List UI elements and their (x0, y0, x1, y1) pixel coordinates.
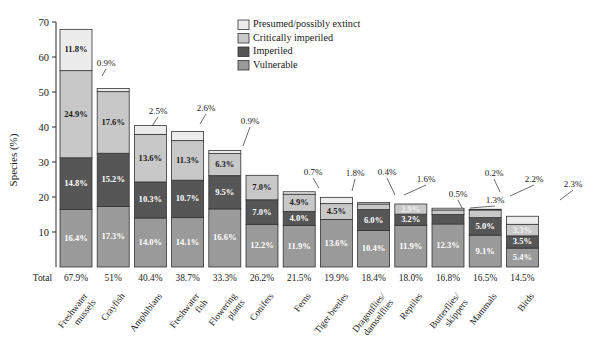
y-axis-title: Species (%) (7, 133, 20, 186)
category-label: Conifers (248, 291, 276, 323)
bar-1: 16.4%14.8%24.9%11.8% (60, 29, 92, 267)
category-label: Mammals (468, 291, 499, 327)
bar-8: 13.6%4.5% (320, 197, 352, 267)
category-label-line: Mammals (468, 291, 499, 327)
bar-segment-label: 14.0% (139, 237, 163, 247)
legend: Presumed/possibly extinctCritically impe… (238, 18, 360, 70)
callout-label: 0.2% (485, 168, 504, 178)
category-label: Freshwaterfish (168, 290, 210, 336)
callout-label: 2.3% (564, 179, 583, 189)
y-axis-tick-label: 10 (39, 227, 50, 238)
bar-segment (432, 208, 464, 210)
bar-total-value: 16.5% (473, 273, 497, 283)
bar-total-value: 18.0% (399, 273, 423, 283)
category-label: Dragonflies/damselflies (350, 291, 395, 341)
bar-segment (506, 216, 538, 224)
legend-label: Vulnerable (253, 59, 298, 70)
bar-segment (358, 203, 390, 204)
category-label: Ferns (292, 291, 313, 314)
callout-label: 0.7% (304, 167, 323, 177)
bar-total-value: 18.4% (361, 273, 385, 283)
bar-segment-label: 5.4% (513, 252, 532, 262)
callout-label: 1.6% (417, 174, 436, 184)
bar-segment-label: 14.1% (176, 237, 200, 247)
category-label-line: Amphibians (128, 291, 164, 334)
bar-10: 11.9%3.2%2.9% (395, 204, 427, 267)
bar-segment-label: 11.8% (64, 44, 87, 54)
bar-segment-label: 14.8% (64, 178, 88, 188)
callout-label: 0.9% (97, 58, 116, 68)
chart-canvas: 10203040506070Species (%)16.4%14.8%24.9%… (0, 0, 600, 358)
bar-5: 16.6%9.5%6.3% (209, 150, 241, 267)
category-label-line: Birds (516, 291, 537, 313)
callout-label: 0.5% (449, 189, 468, 199)
bar-segment-label: 16.4% (64, 233, 88, 243)
bar-segment-label: 10.7% (176, 193, 200, 203)
bar-total-value: 14.5% (510, 273, 534, 283)
category-label-line: Reptiles (398, 291, 425, 322)
bar-segment-label: 24.9% (64, 109, 88, 119)
y-axis-tick-label: 50 (39, 87, 50, 98)
bar-segment-label: 11.9% (288, 241, 311, 251)
callout-label: 1.8% (346, 168, 365, 178)
bar-segment-label: 2.9% (401, 204, 420, 214)
bar-segment-label: 12.3% (436, 240, 460, 250)
legend-label: Presumed/possibly extinct (253, 18, 360, 29)
bar-segment-label: 12.2% (250, 240, 274, 250)
legend-label: Critically imperiled (253, 32, 333, 43)
bar-segment-label: 7.0% (252, 182, 271, 192)
category-label: Reptiles (398, 291, 425, 322)
bar-total-value: 67.9% (64, 273, 88, 283)
bar-segment-label: 17.3% (101, 231, 125, 241)
bar-segment-label: 16.6% (213, 232, 237, 242)
callout-leader-line (404, 185, 426, 195)
bar-segment-label: 11.9% (399, 241, 422, 251)
bar-segment (432, 210, 464, 215)
bars-group: 16.4%14.8%24.9%11.8%17.3%15.2%17.6%14.0%… (60, 29, 538, 267)
callout-leader-line (152, 117, 158, 126)
bar-segment (469, 210, 501, 218)
bar-segment-label: 9.5% (215, 187, 234, 197)
callout-leader-line (102, 69, 106, 76)
bar-11: 12.3% (432, 208, 464, 267)
bar-13: 5.4%3.5%3.3% (506, 216, 538, 267)
bar-total-value: 21.5% (287, 273, 311, 283)
bar-total-value: 51% (105, 273, 122, 283)
bar-2: 17.3%15.2%17.6% (97, 89, 129, 268)
category-label: Crayfish (99, 291, 127, 323)
y-axis-tick-label: 70 (39, 17, 50, 28)
bar-segment (469, 209, 501, 210)
bar-segment (97, 89, 129, 92)
category-label: Amphibians (128, 291, 164, 334)
bar-segment-label: 9.1% (476, 246, 495, 256)
legend-swatch (238, 61, 249, 71)
bar-4: 14.1%10.7%11.3% (172, 132, 204, 267)
callout-leader-line (387, 178, 395, 195)
callout-label: 2.2% (525, 174, 544, 184)
callout-label: 0.4% (378, 167, 397, 177)
bar-segment-label: 3.2% (401, 214, 420, 224)
bar-segment-label: 4.0% (290, 213, 309, 223)
callout-leader-line (200, 114, 206, 124)
category-label: Floweringplants (207, 291, 247, 334)
category-label: Freshwatermussels (56, 290, 98, 336)
bar-7: 11.9%4.0%4.9% (283, 192, 315, 267)
callout-label: 2.5% (149, 106, 168, 116)
legend-swatch (238, 34, 249, 44)
bar-total-value: 40.4% (138, 273, 162, 283)
bar-total-value: 19.9% (324, 273, 348, 283)
bar-segment-label: 17.6% (101, 117, 125, 127)
y-axis-tick-label: 20 (39, 192, 50, 203)
y-axis: 10203040506070 (39, 17, 57, 267)
bar-segment-label: 4.5% (327, 206, 346, 216)
category-label-line: Crayfish (99, 291, 127, 323)
bar-segment-label: 6.0% (364, 215, 383, 225)
callout-leader-line (560, 190, 573, 200)
callout-leader-line (510, 185, 534, 196)
bar-total-value: 33.3% (213, 273, 237, 283)
bar-3: 14.0%10.3%13.6% (134, 126, 166, 267)
bar-segment (209, 150, 241, 153)
legend-swatch (238, 47, 249, 57)
stacked-bar-chart: 10203040506070Species (%)16.4%14.8%24.9%… (0, 0, 600, 358)
legend-swatch (238, 20, 249, 30)
